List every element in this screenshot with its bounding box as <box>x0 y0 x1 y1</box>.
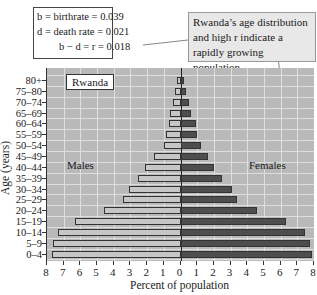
x-tick-label: 8 <box>307 266 317 278</box>
female-bar <box>181 120 196 127</box>
age-group-label: 75–80 <box>16 86 42 97</box>
age-group-label: 80+ <box>26 75 42 86</box>
age-group-label: 10–14 <box>16 227 42 238</box>
age-group-label: 65–69 <box>16 108 42 119</box>
female-bar <box>181 251 313 258</box>
x-tick-label: 0 <box>174 266 186 278</box>
x-axis-title: Percent of population <box>0 279 317 291</box>
age-group-label: 25–29 <box>16 194 42 205</box>
x-tick-label: 2 <box>140 266 152 278</box>
y-tick <box>42 156 46 157</box>
male-bar <box>129 186 182 193</box>
x-tick <box>313 261 314 265</box>
x-tick <box>129 261 130 265</box>
country-label: Rwanda <box>66 74 114 90</box>
age-group-label: 70–74 <box>16 97 42 108</box>
x-tick-label: 7 <box>290 266 302 278</box>
x-tick <box>280 261 281 265</box>
x-tick <box>196 261 197 265</box>
male-bar <box>138 175 182 182</box>
x-tick-label: 4 <box>107 266 119 278</box>
female-bar <box>181 164 214 171</box>
female-bar <box>181 175 223 182</box>
age-group-label: 15–19 <box>16 216 42 227</box>
male-bar <box>164 142 182 149</box>
x-tick <box>180 261 181 265</box>
age-group-label: 45–49 <box>16 151 42 162</box>
x-tick <box>230 261 231 265</box>
age-group-label: 35–39 <box>16 173 42 184</box>
x-tick <box>46 261 47 265</box>
x-tick-label: 7 <box>57 266 69 278</box>
y-tick <box>42 145 46 146</box>
male-bar <box>154 153 182 160</box>
female-bar <box>181 196 238 203</box>
age-group-label: 20–24 <box>16 205 42 216</box>
age-group-label: 50–54 <box>16 140 42 151</box>
x-tick <box>79 261 80 265</box>
female-bar <box>181 131 198 138</box>
y-tick <box>42 102 46 103</box>
female-bar <box>181 142 201 149</box>
y-tick <box>42 134 46 135</box>
y-tick <box>42 189 46 190</box>
x-tick-label: 6 <box>274 266 286 278</box>
y-tick <box>42 221 46 222</box>
x-tick <box>113 261 114 265</box>
x-tick <box>63 261 64 265</box>
x-tick <box>296 261 297 265</box>
age-group-label: 40–44 <box>16 162 42 173</box>
x-tick-label: 4 <box>240 266 252 278</box>
growth-rate-line: b − d = r = 0.018 <box>37 39 109 54</box>
x-tick <box>246 261 247 265</box>
x-tick-label: 3 <box>123 266 135 278</box>
x-tick-label: 2 <box>207 266 219 278</box>
x-tick-label: 3 <box>224 266 236 278</box>
y-tick <box>42 178 46 179</box>
x-tick-label: 1 <box>190 266 202 278</box>
y-tick <box>42 91 46 92</box>
y-axis-title: Age (years) <box>0 141 11 195</box>
female-bar <box>181 77 184 84</box>
y-tick <box>42 210 46 211</box>
y-tick <box>42 123 46 124</box>
male-bar <box>145 164 181 171</box>
age-group-label: 55–59 <box>16 129 42 140</box>
male-bar <box>75 218 181 225</box>
y-tick <box>42 167 46 168</box>
age-group-label: 5–9 <box>26 238 42 249</box>
female-bar <box>181 88 186 95</box>
male-bar <box>53 240 182 247</box>
female-bar <box>181 99 189 106</box>
male-bar <box>166 131 181 138</box>
birthrate-line: b = birthrate = 0.039 <box>37 9 109 24</box>
x-tick <box>146 261 147 265</box>
rates-box: b = birthrate = 0.039 d = death rate = 0… <box>33 7 113 59</box>
female-bar <box>181 207 258 214</box>
x-tick-label: 8 <box>40 266 52 278</box>
age-group-label: 30–34 <box>16 184 42 195</box>
males-label: Males <box>67 159 94 171</box>
y-tick <box>42 113 46 114</box>
male-bar <box>104 207 182 214</box>
female-bar <box>181 240 310 247</box>
x-tick-label: 5 <box>257 266 269 278</box>
x-tick <box>163 261 164 265</box>
y-tick <box>42 254 46 255</box>
female-bar <box>181 218 286 225</box>
y-tick <box>42 199 46 200</box>
age-group-label: 0–4 <box>26 249 42 260</box>
male-bar <box>52 251 181 258</box>
x-tick <box>263 261 264 265</box>
male-bar <box>58 229 182 236</box>
females-label: Females <box>249 159 286 171</box>
female-bar <box>181 153 209 160</box>
callout-text: Rwanda’s age distribution and high r ind… <box>193 16 308 73</box>
female-bar <box>181 186 233 193</box>
female-bar <box>181 229 305 236</box>
female-bar <box>181 110 192 117</box>
x-tick <box>96 261 97 265</box>
x-tick-label: 5 <box>90 266 102 278</box>
male-bar <box>123 196 182 203</box>
deathrate-line: d = death rate = 0.021 <box>37 24 109 39</box>
